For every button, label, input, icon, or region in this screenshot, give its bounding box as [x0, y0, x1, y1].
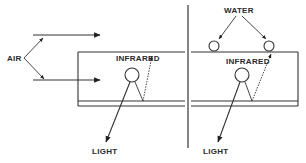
- left-light-source-icon: [125, 68, 139, 82]
- air-label: AIR: [7, 54, 22, 63]
- left-infrared-label: INFRARED: [116, 54, 160, 63]
- diagram-canvas: AIR INFRARED LIGHT WATER: [0, 0, 306, 163]
- left-light-arrow: [106, 82, 130, 142]
- right-beam-down: [245, 82, 252, 101]
- right-light-label: LIGHT: [203, 147, 229, 156]
- water-pointer-right-arrow: [242, 16, 266, 39]
- right-light-arrow: [218, 82, 240, 142]
- right-light-source-icon: [235, 68, 249, 82]
- left-panel: AIR INFRARED LIGHT: [7, 35, 185, 156]
- right-infrared-label: INFRARED: [226, 57, 270, 66]
- left-light-label: LIGHT: [92, 147, 118, 156]
- water-droplet-icon: [209, 41, 219, 51]
- air-pointer-lower-arrow: [24, 58, 44, 79]
- water-droplet-icon: [264, 41, 274, 51]
- air-pointer-upper-arrow: [24, 38, 43, 58]
- left-beam-down: [135, 82, 143, 101]
- right-panel: WATER INFRARED LIGHT: [191, 6, 298, 156]
- water-pointer-left-arrow: [219, 16, 236, 39]
- water-label: WATER: [224, 6, 254, 15]
